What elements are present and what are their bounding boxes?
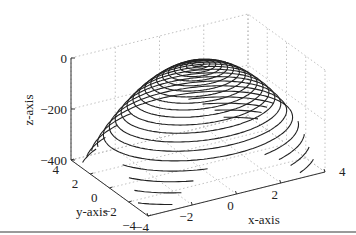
x-tick-label: 4	[339, 164, 346, 179]
y-tick-label: 4	[53, 162, 60, 177]
y-axis-label: y-axis	[76, 204, 108, 219]
contour-ring	[83, 117, 314, 204]
y-tick-label: 0	[91, 190, 98, 205]
y-tick-label: 2	[72, 176, 79, 191]
contour-rings	[83, 59, 314, 204]
chart-3d-contour: −400−2000−4−2024−4−2024 x-axis y-axis z-…	[0, 0, 356, 232]
z-axis-label: z-axis	[21, 94, 36, 125]
x-tick-label: 0	[227, 198, 234, 213]
contour-ring	[87, 110, 309, 193]
z-tick-label: 0	[61, 51, 68, 66]
x-axis-label: x-axis	[248, 212, 280, 227]
x-tick-label: −2	[179, 209, 193, 224]
z-tick-label: −200	[40, 102, 67, 117]
bottom-divider	[0, 231, 356, 233]
x-tick-label: 2	[272, 187, 279, 202]
grid-lines	[71, 14, 325, 216]
